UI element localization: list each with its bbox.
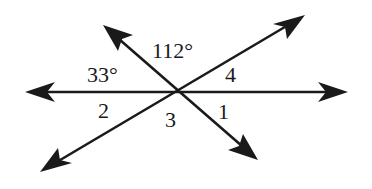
arrowhead-upper-right-icon: [273, 15, 305, 39]
arrowhead-lower-left-icon: [40, 148, 72, 172]
angle-label-4: 4: [225, 62, 236, 87]
angle-label-3: 3: [165, 107, 176, 132]
angle-label-1: 1: [218, 99, 229, 124]
angle-label-112: 112°: [152, 38, 193, 63]
angle-label-2: 2: [98, 98, 109, 123]
angle-label-33: 33°: [87, 62, 118, 87]
intersecting-lines-diagram: 112° 33° 4 2 3 1: [0, 0, 372, 189]
